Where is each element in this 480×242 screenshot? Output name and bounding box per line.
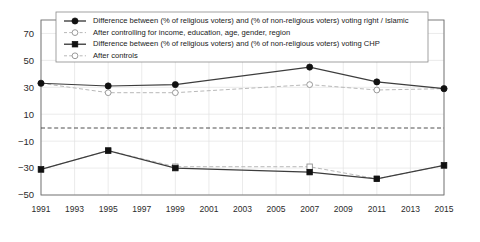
x-tick-label: 1999 — [166, 204, 185, 214]
x-tick-label: 1997 — [132, 204, 151, 214]
data-point-marker — [374, 176, 380, 182]
legend-label: Difference between (% of religious voter… — [93, 16, 409, 25]
data-point-marker — [441, 86, 447, 92]
data-point-marker — [307, 82, 313, 88]
legend-marker-icon — [72, 53, 78, 59]
x-tick-label: 2005 — [267, 204, 286, 214]
y-tick-label: −50 — [18, 189, 34, 200]
y-tick-label: 30 — [23, 82, 34, 93]
legend-entry: After controlling for income, education,… — [64, 28, 290, 37]
data-point-marker — [105, 83, 111, 89]
religious-voting-difference-line-chart: 70503010−10−30−50 1991199319951997199920… — [0, 0, 480, 242]
x-tick-label: 1995 — [99, 204, 118, 214]
data-point-marker — [173, 165, 179, 171]
legend-label: Difference between (% of religious voter… — [93, 39, 380, 48]
x-tick-label: 2007 — [300, 204, 319, 214]
chart-legend: Difference between (% of religious voter… — [56, 12, 428, 62]
legend-marker-icon — [72, 41, 78, 47]
legend-marker-icon — [72, 30, 78, 36]
data-point-marker — [374, 87, 380, 93]
data-point-marker — [38, 80, 44, 86]
data-point-marker — [38, 167, 44, 173]
x-tick-label: 2003 — [233, 204, 252, 214]
y-tick-label: −10 — [18, 136, 34, 147]
data-point-marker — [172, 90, 178, 96]
x-tick-label: 2001 — [199, 204, 218, 214]
legend-marker-icon — [72, 18, 78, 24]
data-point-marker — [374, 79, 380, 85]
x-tick-label: 2011 — [368, 204, 387, 214]
x-tick-label: 2015 — [435, 204, 454, 214]
legend-entry: Difference between (% of religious voter… — [64, 16, 409, 25]
legend-label: After controls — [93, 51, 138, 60]
data-point-marker — [307, 169, 313, 175]
data-point-marker — [105, 90, 111, 96]
data-point-marker — [307, 64, 313, 70]
y-tick-label: 70 — [23, 28, 34, 39]
chart-container: 70503010−10−30−50 1991199319951997199920… — [0, 0, 480, 242]
data-point-marker — [441, 163, 447, 169]
legend-label: After controlling for income, education,… — [93, 28, 290, 37]
x-tick-label: 1993 — [65, 204, 84, 214]
x-tick-label: 2013 — [401, 204, 420, 214]
y-tick-label: −30 — [18, 162, 34, 173]
data-point-marker — [172, 82, 178, 88]
x-tick-label: 2009 — [334, 204, 353, 214]
data-point-marker — [307, 164, 312, 169]
x-tick-label: 1991 — [32, 204, 51, 214]
y-tick-label: 10 — [23, 109, 34, 120]
legend-entry: Difference between (% of religious voter… — [64, 39, 380, 48]
data-point-marker — [105, 148, 111, 154]
y-tick-label: 50 — [23, 55, 34, 66]
